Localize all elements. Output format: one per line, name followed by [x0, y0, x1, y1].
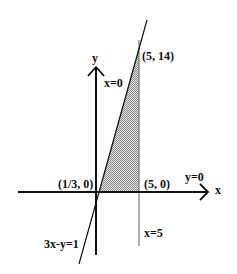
point-label-left: (1/3, 0): [58, 178, 93, 190]
x-axis-equation: y=0: [185, 171, 204, 183]
vertical-line-equation: x=5: [144, 227, 163, 239]
diagram-canvas: [0, 0, 237, 274]
y-axis-equation: x=0: [104, 77, 123, 89]
point-label-right: (5, 0): [144, 178, 170, 190]
x-axis-label: x: [215, 184, 221, 196]
y-axis-label: y: [92, 52, 98, 64]
slant-line-equation: 3x-y=1: [44, 238, 79, 250]
point-label-top: (5, 14): [142, 50, 174, 62]
